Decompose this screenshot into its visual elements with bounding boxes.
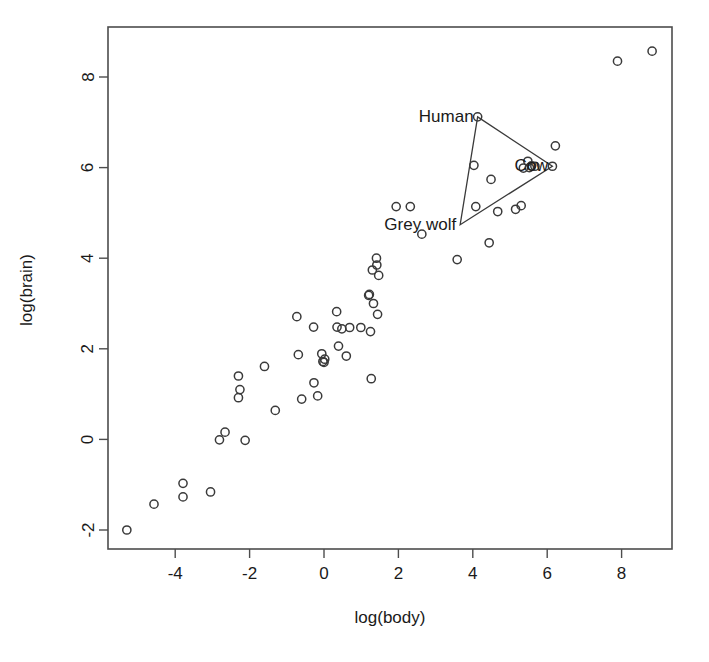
x-tick-label: 8	[617, 564, 626, 583]
point-label-grey-wolf: Grey wolf	[384, 215, 456, 234]
x-tick-label: 4	[468, 564, 477, 583]
y-tick-label: 6	[79, 163, 98, 172]
y-tick-label: 0	[79, 435, 98, 444]
x-tick-label: -2	[242, 564, 257, 583]
y-axis-title: log(brain)	[17, 254, 36, 326]
x-tick-label: 0	[319, 564, 328, 583]
point-label-cow: Cow	[514, 156, 549, 175]
y-tick-label: 2	[79, 344, 98, 353]
y-tick-label: 4	[79, 253, 98, 262]
x-tick-label: 2	[394, 564, 403, 583]
x-tick-label: 6	[542, 564, 551, 583]
scatter-plot-figure: -4-202468 -202468 HumanCowGrey wolf log(…	[0, 0, 709, 662]
plot-background	[0, 0, 709, 662]
x-tick-label: -4	[168, 564, 183, 583]
plot-canvas: -4-202468 -202468 HumanCowGrey wolf log(…	[0, 0, 709, 662]
y-tick-label: -2	[79, 522, 98, 537]
point-label-human: Human	[419, 107, 474, 126]
x-axis-title: log(body)	[355, 608, 426, 627]
y-tick-label: 8	[79, 72, 98, 81]
